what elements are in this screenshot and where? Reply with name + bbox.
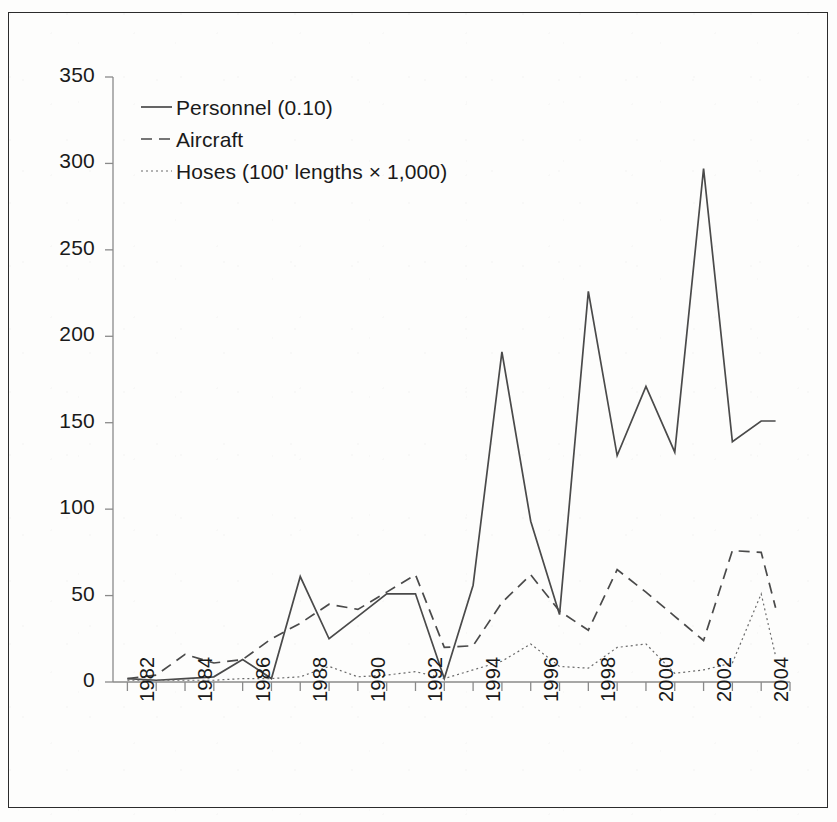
legend-label-personnel: Personnel (0.10) — [176, 96, 333, 120]
x-axis-tick-label: 1998 — [597, 657, 620, 702]
y-axis-tick-label: 300 — [31, 149, 95, 173]
x-axis-tick-label: 1996 — [540, 657, 563, 702]
legend-label-hoses: Hoses (100' lengths × 1,000) — [176, 160, 447, 184]
y-axis-tick-label: 50 — [31, 582, 95, 606]
x-axis-tick-label: 2002 — [713, 657, 736, 702]
y-axis-tick-label: 350 — [31, 63, 95, 87]
line-chart-plot — [0, 0, 837, 822]
x-axis-tick-label: 2004 — [770, 657, 793, 702]
chart-series-group — [127, 169, 775, 681]
x-axis-tick-label: 1986 — [252, 657, 275, 702]
y-axis-tick-label: 0 — [31, 668, 95, 692]
y-axis-tick-label: 100 — [31, 495, 95, 519]
y-axis-tick-label: 200 — [31, 322, 95, 346]
x-axis-tick-label: 1990 — [367, 657, 390, 702]
x-axis-tick-label: 1982 — [136, 657, 159, 702]
series-line-aircraft — [127, 551, 775, 679]
legend-label-aircraft: Aircraft — [176, 128, 243, 152]
series-line-hoses — [127, 594, 775, 680]
x-axis-tick-label: 1984 — [194, 657, 217, 702]
series-line-personnel — [127, 169, 775, 681]
chart-figure: 050100150200250300350 198219841986198819… — [0, 0, 837, 822]
y-axis-ticks — [105, 77, 113, 682]
x-axis-ticks — [127, 682, 790, 691]
y-axis-tick-label: 250 — [31, 236, 95, 260]
x-axis-tick-label: 2000 — [655, 657, 678, 702]
x-axis-tick-label: 1992 — [424, 657, 447, 702]
y-axis-tick-label: 150 — [31, 409, 95, 433]
x-axis-tick-label: 1988 — [309, 657, 332, 702]
x-axis-tick-label: 1994 — [482, 657, 505, 702]
legend-swatch-group — [141, 107, 172, 171]
